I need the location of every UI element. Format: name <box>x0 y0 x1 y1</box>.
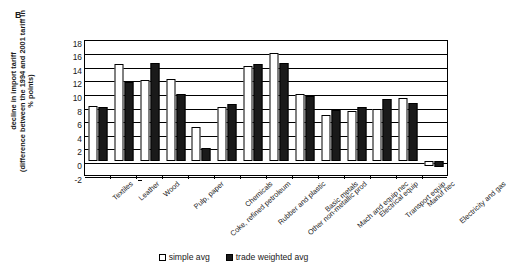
x-label-wood: Wood <box>162 180 181 198</box>
y-axis-title: decline in import tariff (difference bet… <box>0 16 52 166</box>
plot-area <box>84 40 448 176</box>
bar-group <box>240 41 266 175</box>
bars-layer <box>85 41 447 175</box>
x-label-electricity-and-gas: Electricity and gas <box>459 180 508 225</box>
bar-weighted[interactable] <box>305 96 314 161</box>
bar-group <box>163 41 189 175</box>
bar-group <box>188 41 214 175</box>
y-tick-label-8: 8 <box>77 108 82 116</box>
bar-simple[interactable] <box>114 64 123 161</box>
y-tick-label-18: 18 <box>73 40 82 48</box>
bar-weighted[interactable] <box>409 103 418 161</box>
bar-group <box>369 41 395 175</box>
bar-simple[interactable] <box>425 161 434 166</box>
bar-simple[interactable] <box>347 111 356 161</box>
y-tick-label-2: 2 <box>77 148 82 156</box>
x-axis-category-labels: TextilesLeatherWoodPulp, paperCoke, refi… <box>84 178 464 248</box>
bar-group <box>344 41 370 175</box>
legend-label: trade weighted avg <box>236 252 309 262</box>
bar-simple[interactable] <box>399 98 408 161</box>
bar-simple[interactable] <box>269 53 278 161</box>
legend-entry[interactable]: trade weighted avg <box>226 252 309 262</box>
bar-weighted[interactable] <box>124 82 133 161</box>
open-square-icon <box>159 254 166 261</box>
bar-weighted[interactable] <box>202 148 211 161</box>
bar-group <box>214 41 240 175</box>
y-tick-label-10: 10 <box>73 94 82 102</box>
bar-group <box>85 41 111 175</box>
bar-simple[interactable] <box>244 66 253 161</box>
bar-simple[interactable] <box>218 107 227 161</box>
bar-weighted[interactable] <box>176 94 185 161</box>
bar-group <box>318 41 344 175</box>
bar-weighted[interactable] <box>228 104 237 161</box>
bar-weighted[interactable] <box>357 107 366 161</box>
bar-weighted[interactable] <box>279 63 288 161</box>
bar-group <box>137 41 163 175</box>
bar-group <box>395 41 421 175</box>
filled-square-icon <box>226 254 233 261</box>
chart-legend: simple avgtrade weighted avg <box>0 252 467 262</box>
bar-simple[interactable] <box>373 109 382 161</box>
legend-entry[interactable]: simple avg <box>159 252 210 262</box>
y-tick-label-14: 14 <box>73 67 82 75</box>
bar-weighted[interactable] <box>383 99 392 161</box>
y-axis-title-line-3: % points) <box>27 74 36 107</box>
bar-group <box>292 41 318 175</box>
bar-group <box>421 41 447 175</box>
x-label-leather: Leather <box>138 180 161 202</box>
y-tick-label--2: -2 <box>75 176 82 184</box>
bar-weighted[interactable] <box>254 64 263 161</box>
y-tick-label-16: 16 <box>73 53 82 61</box>
y-tick-label-6: 6 <box>77 121 82 129</box>
bar-weighted[interactable] <box>331 110 340 161</box>
bar-group <box>266 41 292 175</box>
y-tick-label-0: 0 <box>77 162 82 170</box>
bar-simple[interactable] <box>140 80 149 161</box>
legend-label: simple avg <box>169 252 210 262</box>
bar-simple[interactable] <box>166 79 175 161</box>
y-tick-label-4: 4 <box>77 135 82 143</box>
x-label-pulp-paper: Pulp, paper <box>193 180 226 210</box>
bar-simple[interactable] <box>192 127 201 161</box>
bar-weighted[interactable] <box>98 107 107 161</box>
y-axis-tick-labels: 181614121086420-2 <box>58 33 82 183</box>
bar-simple[interactable] <box>295 94 304 161</box>
y-tick-label-12: 12 <box>73 80 82 88</box>
bar-group <box>111 41 137 175</box>
bar-weighted[interactable] <box>435 161 444 167</box>
bar-simple[interactable] <box>321 115 330 161</box>
x-label-textiles: Textiles <box>112 180 135 202</box>
bar-simple[interactable] <box>88 106 97 161</box>
bar-weighted[interactable] <box>150 63 159 161</box>
